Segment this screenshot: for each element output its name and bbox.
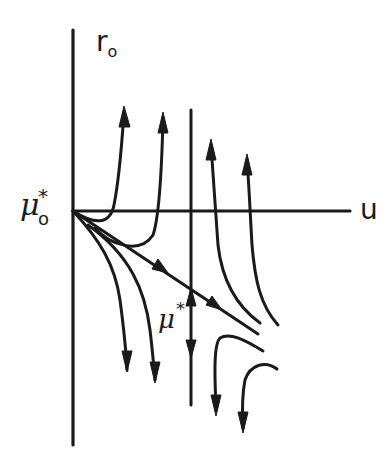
trajectory-down-3 bbox=[211, 336, 263, 416]
vertical-invariant-line bbox=[186, 110, 196, 405]
arrow-down-icon bbox=[211, 395, 221, 416]
fixed-point-label: μ*o bbox=[20, 190, 40, 220]
u-axis-label: u bbox=[360, 196, 378, 224]
arrow-icon bbox=[206, 296, 222, 310]
arrow-down-icon bbox=[186, 340, 196, 358]
arrow-up-icon bbox=[242, 154, 252, 175]
trajectory-up-4 bbox=[242, 154, 278, 325]
arrow-up-icon bbox=[206, 139, 216, 160]
arrow-down-icon bbox=[238, 412, 248, 433]
trajectory-down-4 bbox=[238, 365, 277, 433]
arrow-up-icon bbox=[158, 112, 168, 133]
trajectory-up-2 bbox=[95, 112, 168, 246]
arrow-down-icon bbox=[122, 351, 132, 372]
arrow-down-icon bbox=[150, 362, 160, 383]
arrow-up-icon bbox=[119, 106, 130, 127]
arrow-icon bbox=[152, 259, 168, 273]
separatrix-label: μ* bbox=[158, 306, 175, 332]
phase-portrait-diagram bbox=[0, 0, 389, 472]
trajectory-up-1 bbox=[73, 106, 130, 221]
r-axis-label: ro bbox=[96, 28, 117, 60]
